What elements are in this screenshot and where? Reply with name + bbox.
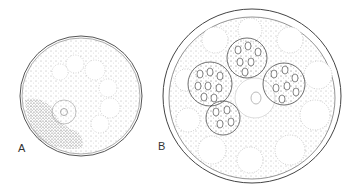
panel-label-a: A <box>18 142 25 154</box>
cell-b <box>163 9 341 183</box>
figure-illustration <box>0 0 356 190</box>
cell-a <box>20 36 142 156</box>
panel-label-b: B <box>158 140 165 152</box>
